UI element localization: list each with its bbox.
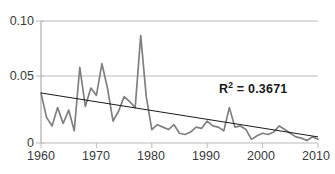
x-tick-label-2000: 2000 — [238, 150, 284, 163]
y-tick-marks — [36, 21, 44, 143]
x-tick-marks — [41, 143, 318, 148]
y-tick-label-0: 0 — [0, 137, 34, 149]
r-squared-value: = 0.3671 — [233, 82, 287, 96]
r-squared-prefix: R — [219, 82, 228, 96]
trendline — [41, 93, 318, 137]
x-tick-label-1960: 1960 — [18, 150, 64, 163]
y-tick-label-0.05: 0.05 — [0, 70, 34, 82]
x-tick-label-1970: 1970 — [73, 150, 119, 163]
r-squared-annotation: R2 = 0.3671 — [219, 82, 287, 96]
x-tick-label-1980: 1980 — [128, 150, 174, 163]
x-tick-label-1990: 1990 — [183, 150, 229, 163]
y-tick-label-0.10: 0.10 — [0, 15, 34, 27]
x-tick-label-2010: 2010 — [293, 150, 335, 163]
